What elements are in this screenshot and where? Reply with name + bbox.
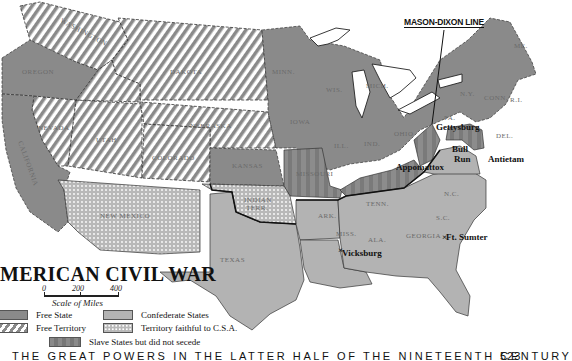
page-number: 523 <box>500 350 521 361</box>
svg-text:NEBRASKA: NEBRASKA <box>190 122 232 130</box>
scale-line <box>44 295 118 297</box>
legend-label: Confederate States <box>141 310 209 320</box>
swatch-free-state <box>0 310 28 320</box>
svg-text:COLORADO: COLORADO <box>152 154 195 162</box>
svg-text:TERR.: TERR. <box>246 204 268 212</box>
scale-caption: Scale of Miles <box>52 298 103 308</box>
svg-text:INDIAN: INDIAN <box>244 196 272 204</box>
place-gettysburg: Gettysburg <box>436 122 480 132</box>
region-arkansas <box>296 200 340 240</box>
running-head: THE GREAT POWERS IN THE LATTER HALF OF T… <box>12 350 572 361</box>
legend-label: Free Territory <box>36 323 86 333</box>
svg-text:MICH.: MICH. <box>366 82 389 90</box>
legend-csa-territory: Territory faithful to C.S.A. <box>103 323 237 333</box>
svg-text:ME.: ME. <box>514 42 528 50</box>
place-antietam: Antietam <box>488 154 524 164</box>
scale-tick-400: 400 <box>110 284 122 293</box>
map-title: MERICAN CIVIL WAR <box>0 263 216 286</box>
place-appomattox: Appomattox <box>396 162 445 172</box>
legend-free-state: Free State <box>0 310 72 320</box>
region-colorado <box>142 124 210 182</box>
legend-label: Territory faithful to C.S.A. <box>141 323 237 333</box>
swatch-border-states <box>49 337 81 347</box>
place-bull-run-2: Run <box>454 154 471 164</box>
svg-text:IOWA: IOWA <box>290 118 310 126</box>
svg-text:ILL.: ILL. <box>334 142 349 150</box>
svg-text:NEW MEXICO: NEW MEXICO <box>100 212 150 220</box>
lake-superior <box>310 28 350 46</box>
svg-text:PA.: PA. <box>444 114 456 122</box>
svg-text:TENN.: TENN. <box>366 200 389 208</box>
svg-text:IND.: IND. <box>364 140 380 148</box>
scale-tick-mark <box>80 292 81 297</box>
legend-label: Slave States but did not secede <box>89 337 200 347</box>
legend-label: Free State <box>36 310 72 320</box>
swatch-free-territory <box>0 323 28 333</box>
legend-free-territory: Free Territory <box>0 323 86 333</box>
svg-text:ARK.: ARK. <box>318 212 337 220</box>
mason-dixon-label: MASON-DIXON LINE <box>404 17 484 28</box>
svg-text:N.Y.: N.Y. <box>460 90 475 98</box>
svg-text:R.I.: R.I. <box>510 96 523 104</box>
legend-border-states: Slave States but did not secede <box>49 337 200 347</box>
svg-text:MINN.: MINN. <box>272 68 295 76</box>
legend-confederate: Confederate States <box>103 310 209 320</box>
svg-text:DAKOTA: DAKOTA <box>170 68 202 76</box>
svg-text:N.C.: N.C. <box>444 190 459 198</box>
swatch-confederate <box>103 310 133 320</box>
svg-text:MISSOURI: MISSOURI <box>296 170 334 178</box>
swatch-csa-territory <box>103 323 133 333</box>
svg-text:MISS.: MISS. <box>336 230 357 238</box>
svg-text:S.C.: S.C. <box>436 214 450 222</box>
scale-tick-200: 200 <box>72 284 84 293</box>
svg-text:KANSAS: KANSAS <box>232 162 263 170</box>
place-vicksburg: Vicksburg <box>342 248 382 258</box>
svg-text:WIS.: WIS. <box>326 86 343 94</box>
scale-tick-mark <box>118 292 119 297</box>
svg-text:UTAH: UTAH <box>96 136 117 144</box>
svg-text:CONN.: CONN. <box>484 94 508 102</box>
svg-text:ALA.: ALA. <box>368 236 386 244</box>
svg-text:NEVADA: NEVADA <box>38 124 70 132</box>
place-ft-sumter: Ft. Sumter <box>446 232 488 242</box>
svg-text:OREGON: OREGON <box>22 68 54 76</box>
battle-x-icon: × <box>338 245 343 255</box>
scale-bar: 0 200 400 Scale of Miles <box>42 284 132 308</box>
scale-tick-mark <box>44 292 45 297</box>
battle-x-icon: × <box>442 232 447 242</box>
svg-text:DEL.: DEL. <box>496 132 513 140</box>
svg-text:OHIO: OHIO <box>394 130 414 138</box>
place-bull-run: Bull <box>452 144 469 154</box>
svg-text:TEXAS: TEXAS <box>220 256 245 264</box>
svg-text:GEORGIA: GEORGIA <box>406 232 441 240</box>
